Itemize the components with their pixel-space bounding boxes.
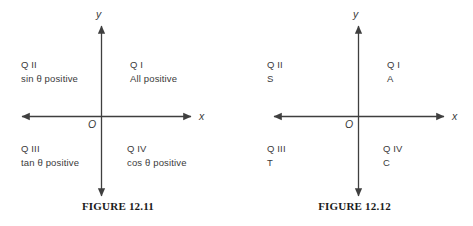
- quadrant-value-q1: A: [387, 72, 400, 86]
- x-axis-label: x: [452, 110, 457, 122]
- x-axis-label: x: [199, 110, 204, 122]
- quadrant-name-q3: Q III: [267, 142, 286, 156]
- quadrant-value-q2: S: [267, 72, 283, 86]
- quadrant-name-q2: Q II: [267, 58, 283, 72]
- quadrant-label-q3: Q III tan θ positive: [21, 142, 79, 169]
- quadrant-label-q4: Q IV C: [383, 142, 403, 169]
- y-axis-label: y: [96, 8, 101, 20]
- quadrant-label-q4: Q IV cos θ positive: [127, 142, 187, 169]
- quadrant-name-q1: Q I: [130, 58, 177, 72]
- origin-label: O: [345, 118, 353, 130]
- quadrant-name-q4: Q IV: [383, 142, 403, 156]
- quadrant-name-q2: Q II: [21, 58, 78, 72]
- quadrant-label-q1: Q I A: [387, 58, 400, 85]
- quadrant-value-q1: All positive: [130, 72, 177, 86]
- quadrant-value-q3: tan θ positive: [21, 156, 79, 170]
- quadrant-value-q2: sin θ positive: [21, 72, 78, 86]
- quadrant-value-q4: cos θ positive: [127, 156, 187, 170]
- figure-12-12: x y O Q II S Q I A Q III T Q IV C: [236, 0, 473, 226]
- quadrant-value-q4: C: [383, 156, 403, 170]
- quadrant-name-q4: Q IV: [127, 142, 187, 156]
- origin-label: O: [88, 118, 96, 130]
- y-axis-label: y: [353, 8, 358, 20]
- figure-caption-left: FIGURE 12.11: [0, 200, 236, 212]
- quadrant-name-q1: Q I: [387, 58, 400, 72]
- quadrant-label-q1: Q I All positive: [130, 58, 177, 85]
- quadrant-label-q3: Q III T: [267, 142, 286, 169]
- coordinate-axes-right: [236, 0, 473, 226]
- quadrant-name-q3: Q III: [21, 142, 79, 156]
- quadrant-label-q2: Q II sin θ positive: [21, 58, 78, 85]
- figure-12-11: x y O Q II sin θ positive Q I All positi…: [0, 0, 236, 226]
- figure-caption-right: FIGURE 12.12: [236, 200, 473, 212]
- quadrant-label-q2: Q II S: [267, 58, 283, 85]
- quadrant-value-q3: T: [267, 156, 286, 170]
